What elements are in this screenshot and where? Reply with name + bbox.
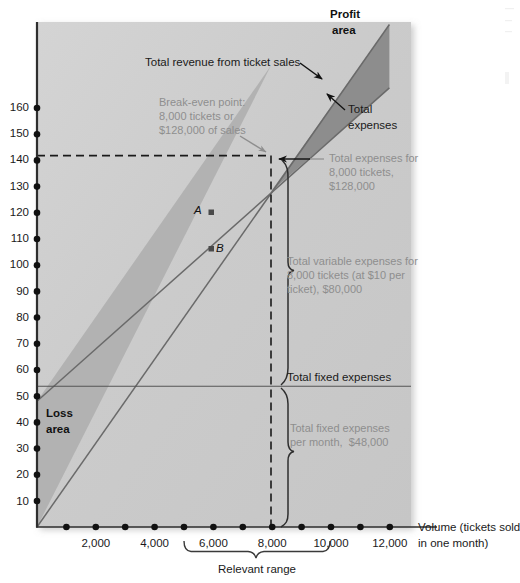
y-tick-label: 150 [3, 127, 29, 141]
break-even-callout-line2: 8,000 tickets or [159, 110, 234, 123]
x-tick-label: 10,000 [304, 537, 358, 551]
total-expenses-label-line2: expenses [348, 119, 397, 133]
y-tick-label: 130 [3, 180, 29, 194]
relevant-range-label: Relevant range [197, 563, 317, 577]
x-tick-label: 6,000 [186, 537, 240, 551]
y-tick-label: 100 [3, 258, 29, 272]
total-expenses-label-line1: Total [348, 103, 372, 117]
variable-expenses-callout-line1: Total variable expenses for [287, 255, 418, 268]
y-tick-label: 10 [3, 495, 29, 509]
x-axis-title-line1: Volume (tickets sold [418, 521, 520, 535]
y-tick-label: 50 [3, 390, 29, 404]
page-edge-artifact [505, 8, 514, 84]
break-even-callout-line1: Break-even point: [159, 96, 245, 109]
variable-expenses-callout-line3: ticket), $80,000 [287, 283, 362, 296]
data-point-label-a: A [194, 204, 202, 218]
variable-expenses-callout-line2: 8,000 tickets (at $10 per [287, 269, 405, 282]
profit-area-label-line2: area [332, 24, 356, 38]
total-fixed-expenses-label: Total fixed expenses [287, 371, 391, 385]
profit-area-label-line1: Profit [330, 8, 360, 22]
total-revenue-label: Total revenue from ticket sales [145, 56, 300, 70]
break-even-callout-line3: $128,000 of sales [159, 124, 246, 137]
fixed-expenses-callout-line1: Total fixed expenses [290, 422, 390, 435]
y-tick-label: 30 [3, 442, 29, 456]
y-tick-label: 40 [3, 416, 29, 430]
x-tick-label: 4,000 [128, 537, 182, 551]
y-tick-label: 90 [3, 285, 29, 299]
total-expenses-8000-callout-line3: $128,000 [329, 180, 375, 193]
y-tick-label: 110 [3, 232, 29, 246]
x-tick-label: 8,000 [245, 537, 299, 551]
data-point-label-b: B [216, 242, 224, 256]
x-axis-title-line2: in one month) [418, 537, 488, 551]
loss-area-label-line1: Loss [46, 407, 73, 421]
x-tick-label: 2,000 [69, 537, 123, 551]
y-tick-label: 60 [3, 363, 29, 377]
y-tick-label: 160 [3, 101, 29, 115]
fixed-expenses-callout-line2: per month, $48,000 [290, 436, 388, 449]
y-tick-label: 70 [3, 337, 29, 351]
y-tick-label: 20 [3, 468, 29, 482]
y-tick-label: 80 [3, 311, 29, 325]
total-expenses-8000-callout-line2: 8,000 tickets, [329, 166, 394, 179]
loss-area-label-line2: area [46, 423, 70, 437]
x-tick-label: 12,000 [363, 537, 417, 551]
total-expenses-8000-callout-line1: Total expenses for [329, 152, 418, 165]
y-tick-label: 140 [3, 153, 29, 167]
y-tick-label: 120 [3, 206, 29, 220]
